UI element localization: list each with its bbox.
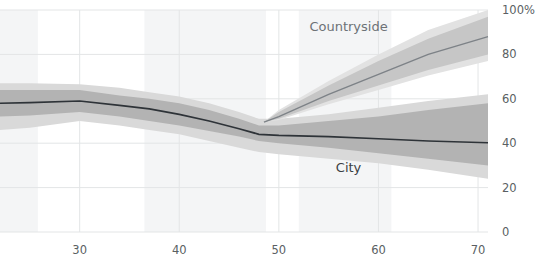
x-tick-label-70: 70 [471, 243, 486, 257]
y-tick-label-100: 100% [502, 3, 535, 17]
chart-root: 020406080100%3040506070 CountrysideCity [0, 0, 542, 262]
y-tick-label-20: 20 [502, 181, 517, 195]
x-tick-label-40: 40 [172, 243, 187, 257]
countryside-label: Countryside [309, 19, 387, 34]
x-tick-label-60: 60 [371, 243, 386, 257]
confidence-band-line-chart: 020406080100%3040506070 CountrysideCity [0, 0, 542, 262]
y-tick-label-0: 0 [502, 225, 509, 239]
city-label: City [336, 160, 362, 175]
x-tick-label-50: 50 [272, 243, 287, 257]
y-tick-label-60: 60 [502, 92, 517, 106]
y-tick-label-80: 80 [502, 47, 517, 61]
x-tick-label-30: 30 [72, 243, 87, 257]
y-tick-label-40: 40 [502, 136, 517, 150]
